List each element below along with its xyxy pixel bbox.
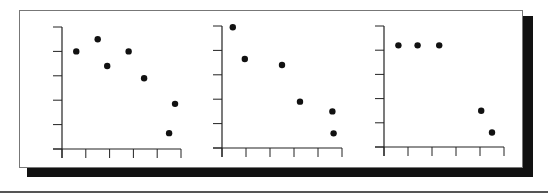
scatter-panel-2 xyxy=(213,24,342,157)
data-point xyxy=(395,42,401,48)
data-point xyxy=(172,101,178,107)
data-point xyxy=(166,130,172,136)
data-point xyxy=(489,129,495,135)
data-point xyxy=(104,63,110,69)
data-point xyxy=(330,130,336,136)
data-point xyxy=(230,24,236,30)
scatter-panel-1 xyxy=(53,27,181,158)
data-point xyxy=(141,75,147,81)
data-point xyxy=(478,108,484,114)
data-point xyxy=(95,36,101,42)
scatter-panel-3 xyxy=(375,26,504,156)
data-point xyxy=(436,42,442,48)
data-point xyxy=(414,42,420,48)
data-point xyxy=(125,48,131,54)
data-point xyxy=(329,108,335,114)
data-point xyxy=(242,56,248,62)
data-point xyxy=(297,98,303,104)
data-point xyxy=(73,48,79,54)
scatter-plots xyxy=(0,0,548,194)
data-point xyxy=(279,62,285,68)
